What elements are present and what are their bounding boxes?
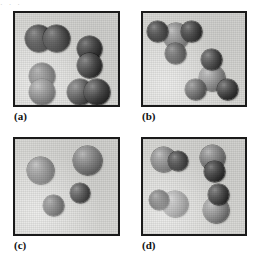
panel-a-contents bbox=[15, 13, 118, 105]
atom-sphere-dark bbox=[208, 184, 229, 205]
panel-a-caption: (a) bbox=[14, 110, 27, 123]
atom-sphere-dark bbox=[165, 43, 186, 64]
panel-b-caption: (b) bbox=[142, 110, 155, 123]
molecular-models-figure: · · · (a) (b) (c) (d) bbox=[0, 0, 261, 263]
atom-sphere-dark bbox=[181, 21, 202, 42]
panel-c-caption: (c) bbox=[14, 239, 26, 252]
panel-d-caption: (d) bbox=[142, 239, 155, 252]
atom-sphere-dark bbox=[217, 79, 238, 100]
panel-d-contents bbox=[143, 139, 245, 234]
cropped-text-artifact: · · · bbox=[0, 0, 261, 9]
atom-sphere-dark bbox=[84, 79, 110, 105]
panel-c-contents bbox=[15, 139, 118, 234]
panel-c bbox=[13, 137, 120, 236]
atom-sphere-dark bbox=[149, 190, 169, 210]
panel-a bbox=[13, 11, 120, 107]
atom-sphere-dark bbox=[70, 183, 90, 203]
atom-c4 bbox=[15, 139, 118, 234]
atom-sphere-dark bbox=[201, 49, 222, 70]
atom-sphere-dark bbox=[147, 21, 168, 42]
atom-sphere-light bbox=[27, 157, 54, 184]
atom-sphere-dark bbox=[185, 79, 206, 100]
atom-sphere-dark bbox=[77, 53, 102, 78]
atom-sphere-dark bbox=[43, 195, 64, 216]
panel-d bbox=[141, 137, 247, 236]
atom-sphere-dark bbox=[29, 79, 55, 105]
panel-b bbox=[141, 11, 247, 107]
atom-sphere-dark bbox=[168, 151, 188, 171]
atom-sphere-dark bbox=[204, 161, 225, 182]
atom-sphere-light bbox=[73, 146, 102, 175]
atom-sphere-dark bbox=[43, 25, 70, 52]
panel-b-contents bbox=[143, 13, 245, 105]
